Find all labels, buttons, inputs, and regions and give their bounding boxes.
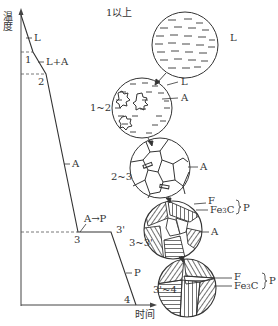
cooling-curve-diagram: 温度 时间 1 2 3 3' 4 L L+A A A→P P 1以上 1~2 2… <box>0 0 278 326</box>
segment-label-A-to-P: A→P <box>84 214 106 224</box>
phase-label-Fe3C-5: Fe3C <box>234 281 258 292</box>
phase-label-L-2: L <box>181 77 188 87</box>
segment-label-L-plus-A: L+A <box>46 57 68 67</box>
micro-liquid <box>152 12 218 78</box>
micro-pearlite-forming <box>140 200 204 262</box>
phase-label-P-4: P <box>243 203 250 213</box>
point-2: 2 <box>38 77 44 87</box>
point-4: 4 <box>124 295 130 305</box>
segment-label-A: A <box>72 159 79 169</box>
stage-label-3prime-4: 3'~4 <box>153 285 177 295</box>
micro-liquid-austenite <box>112 78 172 138</box>
phase-label-A-3: A <box>200 162 207 172</box>
segment-label-L: L <box>34 33 41 43</box>
stage-label-2-3: 2~3 <box>111 172 132 182</box>
micro-austenite <box>130 138 190 198</box>
phase-label-L-1: L <box>230 33 237 43</box>
segment-label-P: P <box>134 268 141 278</box>
x-axis-label: 时间 <box>135 310 155 320</box>
y-axis-label: 温度 <box>3 12 13 32</box>
stage-label-1-2: 1~2 <box>90 103 111 113</box>
dashed-levels <box>21 52 78 232</box>
point-3: 3 <box>74 235 80 245</box>
point-3-prime: 3' <box>116 225 125 235</box>
axes <box>19 8 158 308</box>
stage-label-3-3prime: 3~3' <box>129 238 153 248</box>
stage-label-above-1: 1以上 <box>106 8 132 18</box>
phase-label-P-5: P <box>269 276 276 286</box>
phase-label-Fe3C-4: Fe3C <box>210 205 234 216</box>
phase-label-A-4: A <box>211 227 218 237</box>
point-1: 1 <box>25 55 31 65</box>
arrow-1 <box>155 73 166 85</box>
phase-label-A-2: A <box>181 93 188 103</box>
